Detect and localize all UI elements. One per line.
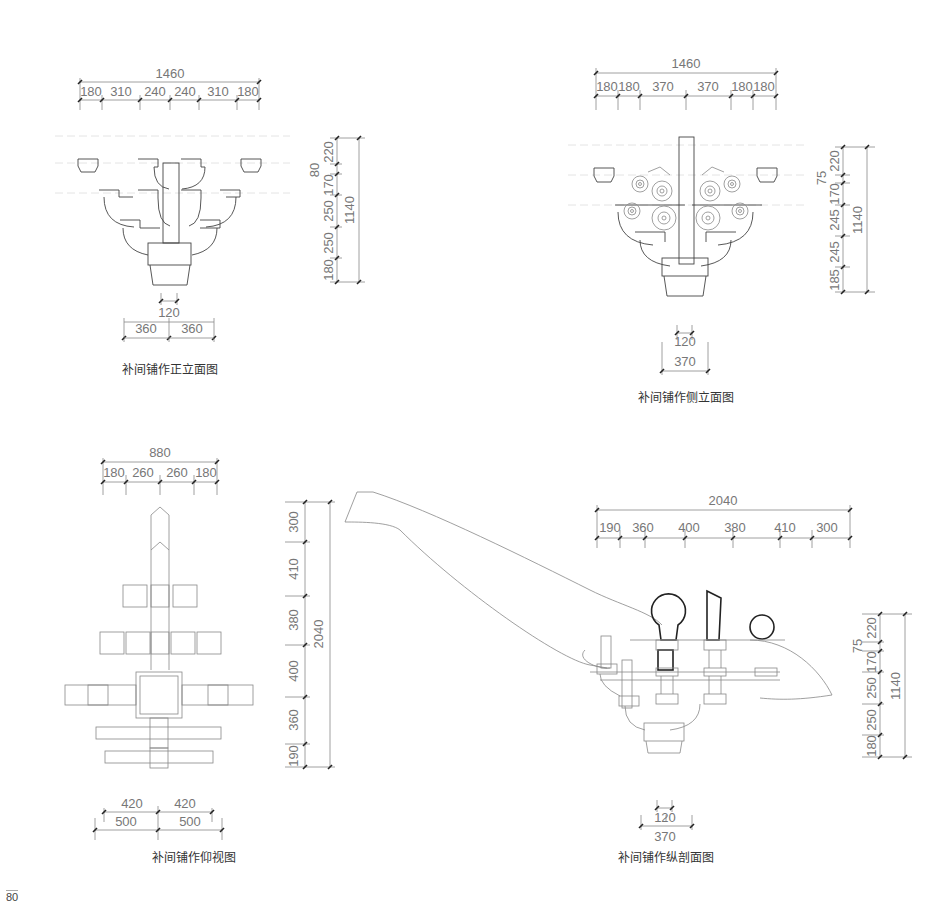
- dim-label: 260: [166, 465, 188, 480]
- dim-label: 500: [179, 814, 201, 829]
- dim-label: 75: [814, 171, 829, 185]
- dim-label: 180: [195, 465, 217, 480]
- dim-label: 500: [115, 814, 137, 829]
- dim-label: 300: [286, 511, 301, 533]
- dim-label: 75: [850, 639, 865, 653]
- dim-label: 360: [181, 321, 203, 336]
- dim-label: 220: [827, 150, 842, 172]
- dim-label: 190: [599, 520, 621, 535]
- dim-label: 180: [864, 735, 879, 757]
- bottom-right-total-dim: 2040: [311, 620, 326, 649]
- dim-label: 120: [654, 810, 676, 825]
- bottom-view-caption: 补间铺作仰视图: [152, 850, 236, 865]
- dim-label: 240: [174, 84, 196, 99]
- dim-label: 310: [110, 84, 132, 99]
- dim-label: 240: [144, 84, 166, 99]
- side-elevation-caption: 补间铺作侧立面图: [638, 390, 734, 405]
- dim-label: 360: [632, 520, 654, 535]
- dim-label: 170: [827, 183, 842, 205]
- front-elevation-caption: 补间铺作正立面图: [122, 362, 218, 377]
- dim-label: 260: [132, 465, 154, 480]
- dim-label: 380: [286, 609, 301, 631]
- dim-label: 250: [864, 677, 879, 699]
- dim-label: 180: [753, 79, 775, 94]
- section-right-total-dim: 1140: [888, 672, 903, 700]
- dim-label: 360: [286, 709, 301, 731]
- drawing-sheet: 1460 180 310 240 240 310 180: [0, 0, 951, 905]
- dim-label: 185: [827, 269, 842, 291]
- dim-label: 180: [237, 84, 259, 99]
- bottom-top-total-dim: 880: [149, 445, 171, 460]
- dim-label: 370: [674, 354, 696, 369]
- dim-label: 120: [158, 305, 180, 320]
- front-right-total-dim: 1140: [342, 196, 357, 224]
- dim-label: 370: [654, 829, 676, 844]
- dim-label: 180: [103, 465, 125, 480]
- dim-label: 245: [827, 241, 842, 263]
- dim-label: 410: [286, 558, 301, 580]
- page-number: 80: [6, 890, 18, 903]
- dim-label: 360: [135, 321, 157, 336]
- scroll-ornaments: [624, 167, 748, 230]
- section-top-total-dim: 2040: [709, 493, 738, 508]
- dim-label: 400: [678, 520, 700, 535]
- dim-label: 180: [731, 79, 753, 94]
- dim-label: 180: [596, 79, 618, 94]
- dim-label: 220: [864, 617, 879, 639]
- dim-label: 245: [827, 209, 842, 231]
- side-elevation-drawing: 1460 180 180 370 370 180 180: [568, 56, 875, 405]
- dim-label: 300: [816, 520, 838, 535]
- dim-label: 420: [174, 796, 196, 811]
- dim-label: 190: [286, 745, 301, 767]
- dim-label: 420: [121, 796, 143, 811]
- dim-label: 180: [321, 259, 336, 281]
- dim-label: 80: [307, 163, 322, 177]
- dim-label: 180: [618, 79, 640, 94]
- side-right-total-dim: 1140: [850, 206, 865, 234]
- dim-label: 250: [321, 200, 336, 222]
- dim-label: 410: [774, 520, 796, 535]
- front-top-total-dim: 1460: [156, 66, 185, 81]
- dim-label: 170: [321, 174, 336, 196]
- dim-label: 180: [80, 84, 102, 99]
- dim-label: 250: [321, 232, 336, 254]
- dim-label: 170: [864, 651, 879, 673]
- bottom-view-drawing: 880 180 260 260 180: [65, 445, 335, 865]
- dim-label: 120: [674, 334, 696, 349]
- dim-label: 370: [697, 79, 719, 94]
- dim-label: 370: [652, 79, 674, 94]
- dim-label: 400: [286, 660, 301, 682]
- front-elevation-drawing: 1460 180 310 240 240 310 180: [55, 66, 365, 377]
- side-top-total-dim: 1460: [672, 56, 701, 71]
- dim-label: 250: [864, 709, 879, 731]
- section-caption: 补间铺作纵剖面图: [618, 851, 714, 865]
- dim-label: 310: [207, 84, 229, 99]
- dim-label: 380: [724, 520, 746, 535]
- longitudinal-section-drawing: 2040 190 360 400 380 410 300: [345, 492, 912, 865]
- dim-label: 220: [321, 141, 336, 163]
